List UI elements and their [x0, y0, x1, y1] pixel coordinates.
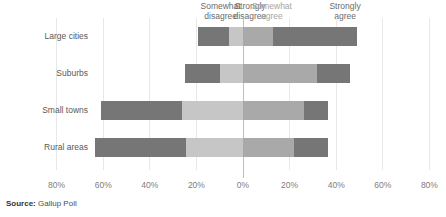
bar-segment: [304, 101, 328, 120]
category-label-2: Small towns: [0, 92, 88, 129]
bar-segment: [243, 138, 294, 157]
bar-segment: [229, 27, 243, 46]
category-label-0: Large cities: [0, 18, 88, 55]
bar-segment: [198, 27, 229, 46]
bar-segment: [220, 64, 243, 83]
plot-area: Large citiesSuburbsSmall townsRural area…: [0, 18, 446, 178]
bar-row: Small towns: [0, 92, 446, 129]
bar-row: Large cities: [0, 18, 446, 55]
x-tick-label-3: 20%: [176, 180, 216, 190]
bar-segment: [243, 64, 317, 83]
category-label-3: Rural areas: [0, 129, 88, 166]
bar-segment: [101, 101, 182, 120]
bar-segment: [186, 138, 243, 157]
x-tick-label-5: 20%: [270, 180, 310, 190]
x-tick-label-8: 80%: [409, 180, 446, 190]
source-label: Source:: [6, 199, 36, 208]
x-tick-label-0: 80%: [37, 180, 77, 190]
bar-segment: [243, 27, 273, 46]
bar-segment: [243, 101, 304, 120]
source-value: Gallup Poll: [36, 199, 77, 208]
bar-segment: [185, 64, 220, 83]
x-tick-label-7: 60%: [363, 180, 403, 190]
bar-segment: [273, 27, 357, 46]
category-label-1: Suburbs: [0, 55, 88, 92]
x-tick-label-6: 40%: [316, 180, 356, 190]
bar-row: Rural areas: [0, 129, 446, 166]
bar-row: Suburbs: [0, 55, 446, 92]
source-note: Source: Gallup Poll: [6, 199, 77, 208]
bar-segment: [182, 101, 243, 120]
bar-segment: [317, 64, 350, 83]
bar-segment: [294, 138, 328, 157]
diverging-bar-chart: Somewhat disagreeStrongly disagreeSomewh…: [0, 0, 446, 217]
x-tick-label-4: 0%: [223, 180, 263, 190]
bar-segment: [95, 138, 186, 157]
x-axis: 80%60%40%20%0%20%40%60%80%: [0, 180, 446, 194]
x-tick-label-2: 40%: [130, 180, 170, 190]
x-tick-label-1: 60%: [83, 180, 123, 190]
